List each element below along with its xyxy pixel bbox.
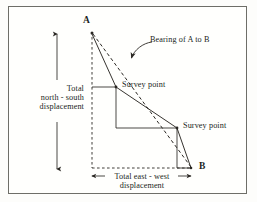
bearing-leader-arrow-icon	[132, 42, 153, 58]
reference-lines	[92, 37, 191, 168]
label-survey-point-2: Survey point	[183, 121, 226, 130]
label-total-north-south-displacement: Total north - south displacement	[12, 84, 84, 112]
survey-diagram-figure: A B Bearing of A to B Survey point Surve…	[0, 0, 257, 202]
label-bearing-of-a-to-b: Bearing of A to B	[150, 35, 209, 44]
bearing-annotation-arrow	[132, 42, 153, 58]
node-marker-survey-2	[176, 127, 179, 130]
label-survey-point-1: Survey point	[122, 80, 165, 89]
leg-survey-2-to-b	[177, 128, 191, 168]
traverse-legs	[92, 34, 191, 168]
node-marker-b	[190, 167, 193, 170]
leg-survey-1-to-survey-2	[116, 87, 177, 128]
bearing-line-group	[93, 34, 191, 167]
label-point-b: B	[199, 161, 205, 172]
node-marker-a	[91, 32, 94, 35]
label-point-a: A	[83, 15, 90, 26]
label-total-east-west-displacement: Total east - west displacement	[84, 172, 200, 190]
node-marker-survey-1	[115, 86, 118, 89]
bearing-line-a-to-b	[93, 34, 191, 167]
